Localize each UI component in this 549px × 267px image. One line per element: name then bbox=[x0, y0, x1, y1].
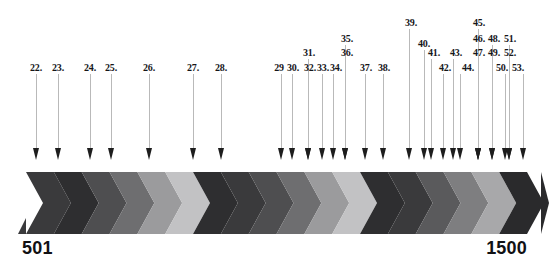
band-end-cap bbox=[541, 172, 549, 234]
callout-label: 22. bbox=[30, 62, 42, 73]
leader-line bbox=[149, 74, 150, 148]
arrowhead-down-icon bbox=[319, 148, 325, 160]
arrowhead-down-icon bbox=[520, 148, 526, 160]
callout-label: 48. bbox=[488, 33, 500, 44]
arrowhead-down-icon bbox=[440, 148, 446, 160]
leader-line bbox=[221, 74, 222, 148]
arrowhead-down-icon bbox=[450, 148, 456, 160]
callout-label: 33. bbox=[317, 62, 329, 73]
callout-label: 28. bbox=[215, 62, 227, 73]
callout-label: 50. bbox=[496, 62, 508, 73]
callout-label: 53. bbox=[512, 62, 524, 73]
leader-line bbox=[453, 59, 454, 148]
range-end-label: 1500 bbox=[486, 238, 527, 259]
callout-label: 29 bbox=[274, 62, 284, 73]
callout-label: 36. bbox=[341, 47, 353, 58]
arrowhead-down-icon bbox=[55, 148, 61, 160]
arrowhead-down-icon bbox=[305, 148, 311, 160]
callout-label: 52. bbox=[504, 47, 516, 58]
arrowhead-down-icon bbox=[457, 148, 463, 160]
leader-line bbox=[492, 59, 493, 148]
leader-line bbox=[292, 74, 293, 148]
arrowhead-down-icon bbox=[87, 148, 93, 160]
arrowhead-down-icon bbox=[421, 148, 427, 160]
arrowhead-down-icon bbox=[190, 148, 196, 160]
arrowhead-down-icon bbox=[342, 148, 348, 160]
leader-line bbox=[383, 74, 384, 148]
callout-label: 45. bbox=[473, 17, 485, 28]
band-start-cap bbox=[18, 218, 26, 234]
arrowhead-down-icon bbox=[475, 148, 481, 160]
arrowhead-down-icon bbox=[380, 148, 386, 160]
callout-label: 49. bbox=[488, 47, 500, 58]
callout-label: 46. bbox=[473, 33, 485, 44]
callout-label: 51. bbox=[504, 33, 516, 44]
callout-label: 32. bbox=[304, 62, 316, 73]
callout-label: 47. bbox=[473, 47, 485, 58]
figure-root: 22.23.24.25.26.27.28.2930.31.32.33.34.35… bbox=[0, 0, 549, 267]
leader-line bbox=[322, 74, 323, 148]
leader-line bbox=[58, 74, 59, 148]
leader-line bbox=[281, 74, 282, 148]
callout-label: 44. bbox=[462, 62, 474, 73]
leader-line bbox=[431, 59, 432, 148]
callout-label: 31. bbox=[303, 47, 315, 58]
callout-label: 37. bbox=[360, 62, 372, 73]
callout-label: 34. bbox=[330, 62, 342, 73]
callout-label: 25. bbox=[105, 62, 117, 73]
arrowhead-down-icon bbox=[330, 148, 336, 160]
chevron-band bbox=[0, 172, 549, 234]
arrowhead-down-icon bbox=[362, 148, 368, 160]
arrowhead-down-icon bbox=[108, 148, 114, 160]
arrowhead-down-icon bbox=[506, 148, 512, 160]
arrowhead-down-icon bbox=[33, 148, 39, 160]
callout-label: 23. bbox=[52, 62, 64, 73]
callout-label: 27. bbox=[187, 62, 199, 73]
arrowhead-down-icon bbox=[428, 148, 434, 160]
callout-label: 42. bbox=[439, 62, 451, 73]
leader-line bbox=[409, 29, 410, 148]
leader-line bbox=[443, 74, 444, 148]
leader-line bbox=[111, 74, 112, 148]
callout-label: 41. bbox=[428, 47, 440, 58]
callout-label: 26. bbox=[143, 62, 155, 73]
arrowhead-down-icon bbox=[406, 148, 412, 160]
callout-label: 43. bbox=[450, 47, 462, 58]
callout-label: 38. bbox=[378, 62, 390, 73]
arrowhead-down-icon bbox=[489, 148, 495, 160]
leader-line bbox=[308, 74, 309, 148]
arrowhead-down-icon bbox=[218, 148, 224, 160]
leader-line bbox=[523, 74, 524, 148]
leader-line bbox=[460, 74, 461, 148]
leader-line bbox=[345, 59, 346, 148]
leader-line bbox=[333, 74, 334, 148]
leader-line bbox=[365, 74, 366, 148]
leader-line bbox=[478, 59, 479, 148]
callout-label: 39. bbox=[405, 17, 417, 28]
leader-line bbox=[193, 74, 194, 148]
leader-line bbox=[505, 74, 506, 148]
leader-line bbox=[424, 50, 425, 148]
range-start-label: 501 bbox=[22, 238, 53, 259]
callout-label: 35. bbox=[341, 33, 353, 44]
leader-line bbox=[36, 74, 37, 148]
callout-label: 30. bbox=[287, 62, 299, 73]
leader-line bbox=[509, 59, 510, 148]
arrowhead-down-icon bbox=[278, 148, 284, 160]
arrowhead-down-icon bbox=[146, 148, 152, 160]
leader-line bbox=[90, 74, 91, 148]
callout-label: 24. bbox=[84, 62, 96, 73]
arrowhead-down-icon bbox=[289, 148, 295, 160]
